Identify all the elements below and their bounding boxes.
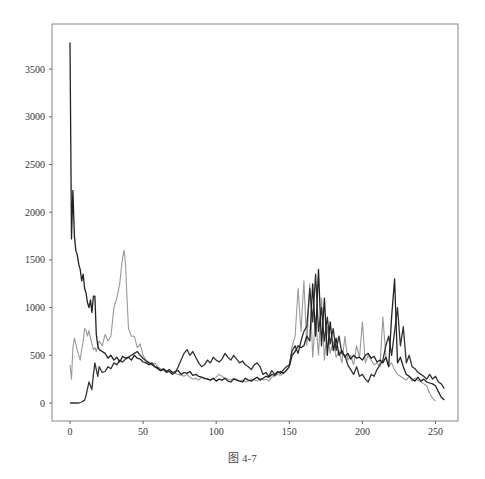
- x-tick-label: 250: [428, 426, 443, 437]
- x-tick-label: 100: [209, 426, 224, 437]
- x-axis: 050100150200250: [68, 421, 444, 437]
- x-tick-label: 50: [138, 426, 148, 437]
- series-dark-decaying-line: [70, 42, 444, 400]
- y-tick-label: 1500: [25, 254, 45, 265]
- series-light-peak-line: [70, 250, 436, 401]
- y-tick-label: 2500: [25, 159, 45, 170]
- y-tick-label: 3000: [25, 111, 45, 122]
- histogram-chart: 0500100015002000250030003500 05010015020…: [0, 0, 485, 440]
- y-tick-label: 3500: [25, 64, 45, 75]
- y-axis: 0500100015002000250030003500: [25, 64, 52, 409]
- series-dark-rising-line: [70, 274, 444, 403]
- y-tick-label: 2000: [25, 207, 45, 218]
- x-tick-label: 0: [68, 426, 73, 437]
- y-tick-label: 500: [30, 350, 45, 361]
- y-tick-label: 0: [40, 398, 45, 409]
- y-tick-label: 1000: [25, 302, 45, 313]
- x-tick-label: 150: [282, 426, 297, 437]
- data-lines: [70, 42, 444, 403]
- x-tick-label: 200: [355, 426, 370, 437]
- figure-caption: 图 4-7: [0, 449, 485, 465]
